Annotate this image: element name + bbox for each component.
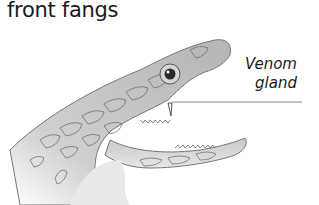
upper-teeth — [140, 120, 170, 123]
snake-head-illustration — [0, 0, 319, 205]
snake-eye-highlight — [167, 71, 170, 74]
venom-gland-label-line1: Venom — [245, 55, 297, 73]
snake-eye-pupil — [165, 69, 176, 80]
venom-gland-label-line2: gland — [255, 74, 297, 92]
front-fang-icon — [168, 103, 172, 116]
lower-teeth — [175, 145, 215, 148]
